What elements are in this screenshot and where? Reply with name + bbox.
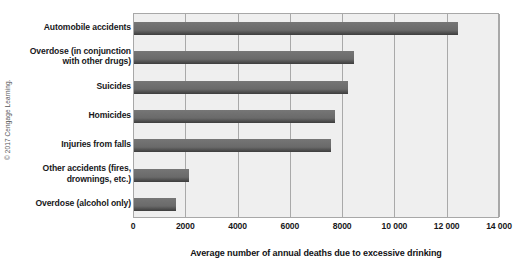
category-label: Other accidents (fires,drownings, etc.) <box>14 163 131 184</box>
bar-chart-figure: © 2017 Cengage Learning. Automobile acci… <box>0 0 524 269</box>
bar <box>134 110 335 123</box>
category-label-line: Other accidents (fires, <box>43 163 131 173</box>
category-label: Injuries from falls <box>14 139 131 149</box>
gridline <box>394 14 395 217</box>
x-axis-tick-label: 8000 <box>333 221 352 231</box>
plot-area <box>133 13 499 218</box>
x-axis-tick-label: 12 000 <box>434 221 460 231</box>
x-axis-tick-labels: 0200040006000800010 00012 00014 000 <box>133 221 499 235</box>
x-axis-tick-label: 6000 <box>280 221 299 231</box>
x-axis-title: Average number of annual deaths due to e… <box>133 248 499 258</box>
bar <box>134 198 176 211</box>
gridline <box>447 14 448 217</box>
bar <box>134 51 354 64</box>
category-label-line: Suicides <box>96 81 131 91</box>
category-label: Automobile accidents <box>14 22 131 32</box>
category-label-line: Automobile accidents <box>44 22 131 32</box>
category-label: Overdose (alcohol only) <box>14 198 131 208</box>
x-axis-tick-label: 14 000 <box>486 221 512 231</box>
category-axis-labels: Automobile accidentsOverdose (in conjunc… <box>14 13 131 218</box>
bar <box>134 22 458 35</box>
x-axis-tick-label: 0 <box>131 221 136 231</box>
category-label-line: Overdose (in conjunction <box>30 46 131 56</box>
x-axis-tick-label: 10 000 <box>382 221 408 231</box>
category-label: Suicides <box>14 81 131 91</box>
x-axis-tick-label: 4000 <box>228 221 247 231</box>
bar <box>134 139 331 152</box>
category-label: Overdose (in conjunctionwith other drugs… <box>14 46 131 67</box>
category-label-line: Overdose (alcohol only) <box>35 198 131 208</box>
category-label-line: with other drugs) <box>63 56 131 66</box>
category-label-line: drownings, etc.) <box>67 174 131 184</box>
x-axis-tick-label: 2000 <box>176 221 195 231</box>
bar <box>134 169 189 182</box>
gridline <box>499 14 500 217</box>
gridline <box>342 14 343 217</box>
category-label-line: Injuries from falls <box>61 139 131 149</box>
category-label: Homicides <box>14 110 131 120</box>
category-label-line: Homicides <box>88 110 131 120</box>
bar <box>134 81 348 94</box>
